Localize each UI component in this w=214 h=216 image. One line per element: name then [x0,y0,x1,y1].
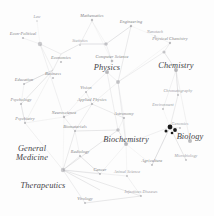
node-label[interactable]: Biology [177,133,204,142]
cluster-label-line: Medicine [16,154,48,163]
cluster-label[interactable]: GeneralMedicine [16,145,48,163]
node-label[interactable]: Microbiology [175,154,198,158]
node-label[interactable]: Computer Science [96,55,129,60]
node-label[interactable]: Virology [77,197,92,202]
node-label[interactable]: Econ-Political [10,32,36,37]
node-label[interactable]: Astronomy [114,112,133,117]
node-label[interactable]: Cancer [93,168,106,173]
node-label[interactable]: Statistics [72,39,87,43]
node-label[interactable]: Neuroscience [52,111,76,116]
discipline-network-map: LawEcon-PoliticalMathematicsEngineeringS… [0,0,214,216]
node-label[interactable]: Chromatography [164,89,193,93]
node-label[interactable]: Physics [94,64,120,73]
node-label[interactable]: Biochemistry [103,136,148,145]
node-label[interactable]: Psychiatry [15,117,34,122]
node-label[interactable]: Chemistry [158,62,193,71]
node-label-layer: LawEcon-PoliticalMathematicsEngineeringS… [0,0,214,216]
node-label[interactable]: Business [45,72,61,77]
node-label[interactable]: Economics [51,56,71,61]
node-label[interactable]: Genomics [172,122,189,126]
cluster-label[interactable]: Therapeutics [21,182,66,191]
node-label[interactable]: Nanotech [147,30,163,34]
node-label[interactable]: Mathematics [80,14,103,19]
node-label[interactable]: Education [15,78,34,83]
node-label[interactable]: Applied Physics [77,98,106,103]
node-label[interactable]: Animal Science [114,170,140,174]
node-label[interactable]: Physical Chemistry [152,37,187,42]
node-label[interactable]: Law [33,15,40,19]
node-label[interactable]: Agriculture [142,159,163,164]
cluster-label-line: Therapeutics [21,182,66,191]
node-label[interactable]: Psychology [11,98,32,103]
node-label[interactable]: Vision [80,86,91,91]
node-label[interactable]: Engineering [120,20,142,25]
node-label[interactable]: Radiology [71,150,90,155]
node-label[interactable]: Environment [152,103,174,107]
node-label[interactable]: Biomaterials [63,125,86,130]
node-label[interactable]: Infectious Diseases [125,190,158,194]
